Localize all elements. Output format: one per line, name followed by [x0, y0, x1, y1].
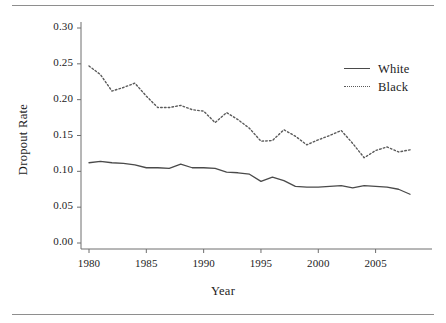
y-axis-tick-label: 0.20 — [29, 92, 73, 104]
y-axis-tick-label: 0.10 — [29, 163, 73, 175]
figure-container: 0.000.050.100.150.200.250.30198019851990… — [0, 0, 446, 323]
y-axis-title: Dropout Rate — [16, 75, 31, 205]
x-axis-tick-label: 1980 — [64, 257, 114, 269]
chart-plot-area — [0, 0, 446, 323]
x-axis-tick-label: 1985 — [121, 257, 171, 269]
legend-item-white: White — [344, 60, 440, 78]
x-axis-tick-label: 2000 — [293, 257, 343, 269]
series-line-white — [89, 161, 410, 194]
y-axis-tick-label: 0.15 — [29, 128, 73, 140]
legend-item-black: Black — [344, 78, 440, 96]
legend-label-black: Black — [370, 80, 408, 95]
y-axis-tick-label: 0.25 — [29, 56, 73, 68]
y-axis-tick-label: 0.05 — [29, 199, 73, 211]
x-axis-tick-label: 1995 — [236, 257, 286, 269]
axes-group — [77, 22, 432, 253]
y-axis-tick-label: 0.30 — [29, 20, 73, 32]
legend-label-white: White — [370, 62, 410, 77]
x-axis-title: Year — [0, 284, 446, 299]
x-axis-tick-label: 1990 — [179, 257, 229, 269]
x-axis-tick-label: 2005 — [351, 257, 401, 269]
chart-legend: White Black — [344, 60, 440, 96]
y-axis-tick-label: 0.00 — [29, 235, 73, 247]
legend-line-swatch-dotted-icon — [344, 81, 370, 93]
legend-line-swatch-solid-icon — [344, 63, 370, 75]
